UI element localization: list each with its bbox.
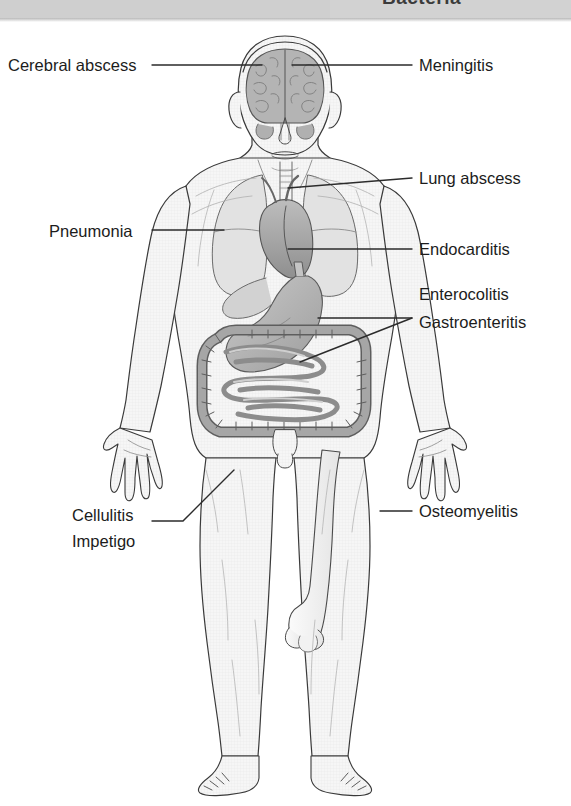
label-osteomyelitis: Osteomyelitis — [419, 500, 518, 523]
label-lung-abscess-text: Lung abscess — [419, 169, 521, 187]
label-cellulitis: Cellulitis — [72, 504, 133, 527]
human-body-figure — [0, 0, 571, 806]
right-hand — [408, 428, 467, 501]
right-foot — [311, 756, 372, 796]
label-enterocolitis: Enterocolitis — [419, 283, 509, 306]
label-impetigo: Impetigo — [72, 530, 135, 553]
left-foot — [198, 756, 259, 796]
left-hand — [103, 428, 162, 501]
label-enterocolitis-text: Enterocolitis — [419, 285, 509, 303]
label-meningitis: Meningitis — [419, 54, 493, 77]
label-cellulitis-text: Cellulitis — [72, 506, 133, 524]
label-meningitis-text: Meningitis — [419, 56, 493, 74]
diagram-page: Bacteria — [0, 0, 571, 806]
label-gastroenteritis-text: Gastroenteritis — [419, 313, 526, 331]
label-endocarditis-text: Endocarditis — [419, 240, 510, 258]
label-endocarditis: Endocarditis — [419, 238, 510, 261]
label-osteomyelitis-text: Osteomyelitis — [419, 502, 518, 520]
label-gastroenteritis: Gastroenteritis — [419, 311, 526, 334]
label-lung-abscess: Lung abscess — [419, 167, 521, 190]
label-impetigo-text: Impetigo — [72, 532, 135, 550]
label-cerebral-abscess: Cerebral abscess — [8, 54, 136, 77]
label-pneumonia: Pneumonia — [49, 220, 132, 243]
label-pneumonia-text: Pneumonia — [49, 222, 132, 240]
label-cerebral-abscess-text: Cerebral abscess — [8, 56, 136, 74]
